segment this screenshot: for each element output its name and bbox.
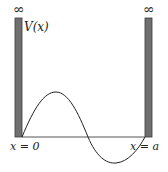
left-boundary-label: x = 0 bbox=[10, 140, 39, 153]
wavefunction-curve bbox=[22, 92, 145, 163]
potential-label: V(x) bbox=[24, 20, 49, 34]
left-infinity-label: ∞ bbox=[13, 1, 25, 17]
right-infinity-label: ∞ bbox=[143, 1, 155, 17]
left-wall bbox=[15, 18, 22, 137]
infinite-well-diagram: ∞ ∞ V(x) x = 0 x = a bbox=[0, 0, 168, 172]
right-boundary-label: x = a bbox=[130, 140, 159, 153]
right-wall bbox=[145, 18, 152, 137]
